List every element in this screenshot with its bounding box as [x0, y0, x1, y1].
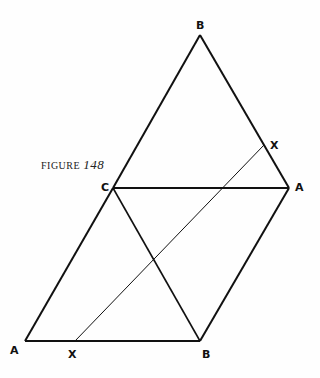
label-c: C — [101, 182, 109, 193]
figure-caption: FIGURE 148 — [41, 157, 104, 173]
caption-prefix: FIGURE — [41, 160, 80, 171]
label-b-bottom: B — [202, 349, 210, 360]
figure-148-diagram: B X C A A X B FIGURE 148 — [0, 0, 320, 378]
label-x-upper: X — [270, 140, 278, 151]
caption-number: 148 — [83, 157, 104, 172]
label-a-bottom: A — [10, 345, 19, 356]
edge-b-bottom-a-right — [200, 188, 289, 341]
label-b-top: B — [196, 20, 204, 31]
edge-c-a-bottom — [25, 188, 113, 341]
edge-b-top-c — [113, 35, 200, 188]
edge-c-b-bottom — [113, 188, 200, 341]
geometry-drawing — [0, 0, 320, 378]
label-a-right: A — [295, 182, 304, 193]
label-x-bottom: X — [68, 349, 76, 360]
segment-x-x — [75, 145, 264, 341]
